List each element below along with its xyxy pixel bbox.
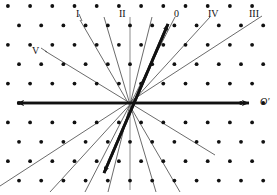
lattice-dot: [128, 62, 132, 66]
lattice-dot: [117, 159, 121, 163]
lattice-dot: [28, 159, 32, 163]
lattice-dot: [184, 4, 188, 8]
lattice-dot: [184, 82, 188, 86]
lattice-dot: [228, 82, 232, 86]
label-III: III: [249, 9, 259, 19]
figure-canvas: III0IVIIIVO': [0, 0, 277, 195]
lattice-dot: [250, 82, 254, 86]
lattice-dot: [95, 4, 99, 8]
lattice-dot: [39, 179, 43, 183]
lattice-dot: [150, 24, 154, 28]
lattice-dot: [62, 140, 66, 144]
lattice-dot: [39, 62, 43, 66]
lattice-dot: [206, 82, 210, 86]
lattice-dot: [95, 121, 99, 125]
lattice-dot: [95, 43, 99, 47]
lattice-dot: [161, 121, 165, 125]
lattice-dot: [250, 43, 254, 47]
lattice-dot: [84, 24, 88, 28]
lattice-dot: [261, 62, 265, 66]
lattice-dot: [228, 4, 232, 8]
lattice-dot: [150, 140, 154, 144]
lattice-dot: [173, 140, 177, 144]
lattice-dot: [106, 179, 110, 183]
label-II: II: [119, 9, 126, 19]
label-I: I: [76, 9, 79, 19]
lattice-dot: [184, 121, 188, 125]
lattice-dot: [106, 24, 110, 28]
lattice-dot: [62, 62, 66, 66]
lattice-dot: [84, 179, 88, 183]
lattice-dot: [62, 24, 66, 28]
label-0: 0: [174, 9, 179, 19]
lattice-dot: [184, 159, 188, 163]
lattice-dot: [228, 159, 232, 163]
lattice-dot: [161, 82, 165, 86]
lattice-dot: [228, 43, 232, 47]
lattice-dot: [239, 179, 243, 183]
label-Oprime: O': [260, 97, 269, 107]
lattice-dot: [50, 121, 54, 125]
lattice-dot: [50, 43, 54, 47]
lattice-dot: [173, 24, 177, 28]
lattice-dot: [117, 43, 121, 47]
lattice-dot: [17, 140, 21, 144]
lattice-dot: [50, 82, 54, 86]
lattice-dot: [173, 62, 177, 66]
lattice-dot: [139, 43, 143, 47]
lattice-dot: [28, 121, 32, 125]
lattice-dot: [139, 4, 143, 8]
lattice-dot: [84, 62, 88, 66]
lattice-dot: [239, 140, 243, 144]
lattice-dot: [62, 179, 66, 183]
lattice-dot: [195, 62, 199, 66]
lattice-dot: [39, 24, 43, 28]
lattice-dot: [206, 43, 210, 47]
lattice-dot: [261, 179, 265, 183]
lattice-dot: [250, 121, 254, 125]
label-tick-group: [41, 14, 82, 52]
lattice-dot: [161, 4, 165, 8]
lattice-dot: [217, 140, 221, 144]
lattice-dot: [261, 24, 265, 28]
lattice-dot: [17, 62, 21, 66]
lattice-dot: [195, 140, 199, 144]
lattice-dot: [128, 140, 132, 144]
lattice-dot: [106, 62, 110, 66]
lattice-dot: [217, 179, 221, 183]
lattice-dot: [161, 159, 165, 163]
lattice-dot: [128, 24, 132, 28]
lattice-dot: [106, 140, 110, 144]
tick-V: [41, 48, 47, 52]
lattice-dot: [39, 140, 43, 144]
lattice-dot: [73, 82, 77, 86]
lattice-dot: [17, 24, 21, 28]
lattice-dot: [173, 179, 177, 183]
lattice-dot: [73, 159, 77, 163]
lattice-dot: [184, 43, 188, 47]
lattice-dot: [95, 159, 99, 163]
lattice-dot: [228, 121, 232, 125]
lattice-dot: [239, 24, 243, 28]
lattice-dot: [6, 159, 10, 163]
lattice-dot: [6, 43, 10, 47]
lattice-dot: [195, 179, 199, 183]
lattice-dot: [117, 121, 121, 125]
lattice-dot: [161, 43, 165, 47]
lattice-dot: [117, 82, 121, 86]
lattice-dot: [239, 62, 243, 66]
lattice-dot: [139, 159, 143, 163]
lattice-dot: [261, 140, 265, 144]
lattice-dot: [17, 179, 21, 183]
lattice-dot: [28, 82, 32, 86]
lattice-dot: [50, 159, 54, 163]
lattice-dot: [195, 24, 199, 28]
lattice-dot: [128, 179, 132, 183]
lattice-dot: [73, 121, 77, 125]
lattice-dot: [217, 62, 221, 66]
lattice-dot: [6, 82, 10, 86]
lattice-dot: [6, 4, 10, 8]
lattice-dot: [250, 159, 254, 163]
lattice-dot: [139, 121, 143, 125]
lattice-dot: [84, 140, 88, 144]
